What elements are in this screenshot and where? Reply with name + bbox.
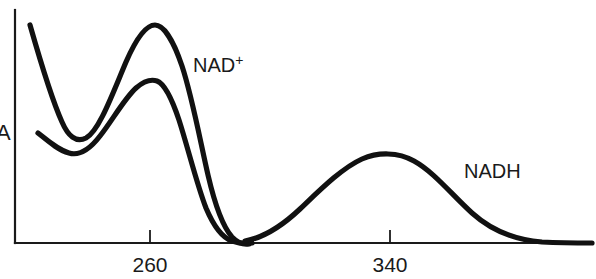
x-tick-label-340: 340 (372, 253, 407, 276)
nadh-curve (245, 154, 592, 243)
series-label-nad-plus-superscript: + (235, 52, 243, 68)
series-label-nad-plus-text: NAD (193, 54, 235, 76)
x-tick-label-260: 260 (132, 253, 167, 276)
absorption-spectrum-figure: A 260 340 NAD+ NADH (0, 0, 596, 279)
spectrum-chart-svg: A 260 340 NAD+ NADH (0, 0, 596, 279)
y-axis-label: A (0, 120, 11, 145)
series-label-nadh: NADH (464, 160, 521, 182)
series-label-nad-plus: NAD+ (193, 52, 243, 76)
